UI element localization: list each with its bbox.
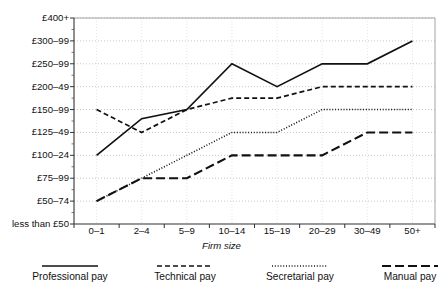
legend-label: Manual pay [355,271,443,283]
x-axis-title: Firm size [0,240,443,251]
legend-item: Manual pay [355,262,443,283]
x-axis-tick-label: 50+ [404,226,420,236]
chart-container: Firm size £400+£300–99£250–99£200–49£150… [0,0,443,297]
legend-line-swatch [130,262,240,270]
legend-label: Professional pay [15,271,125,283]
x-axis-tick-label: 20–29 [309,226,336,236]
legend-item: Secretarial pay [245,262,355,283]
legend-line-swatch [245,262,355,270]
x-axis-tick-label: 10–14 [219,226,246,236]
legend-label: Secretarial pay [245,271,355,283]
x-axis-tick-label: 15–19 [264,226,291,236]
plot-area [0,0,443,232]
legend-item: Professional pay [15,262,125,283]
legend-line-swatch [15,262,125,270]
series-line-manual-pay [97,132,413,201]
legend-item: Technical pay [130,262,240,283]
x-axis-tick-label: 0–1 [89,226,105,236]
x-axis-tick-label: 2–4 [134,226,150,236]
x-axis-tick-label: 5–9 [179,226,195,236]
legend-label: Technical pay [130,271,240,283]
x-axis-tick-label: 30–49 [354,226,381,236]
chart-legend: Professional payTechnical paySecretarial… [0,262,443,297]
legend-line-swatch [355,262,443,270]
